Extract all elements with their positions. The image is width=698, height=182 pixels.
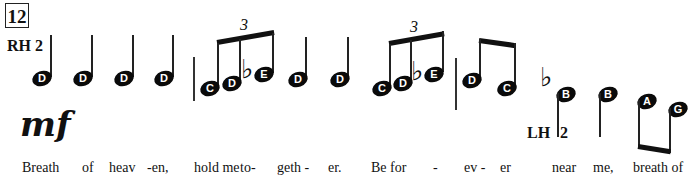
note-head: D: [460, 70, 484, 91]
left-hand-label: LH: [527, 124, 550, 142]
triplet-mark: 3: [410, 18, 418, 36]
lyric-syllable: of: [82, 160, 94, 176]
note-stem: [599, 93, 601, 137]
note-head: D: [328, 69, 352, 90]
note-head: E: [252, 64, 276, 85]
lyric-syllable: ev -: [464, 160, 485, 176]
note-head: D: [112, 68, 136, 89]
lyric-syllable: hold me: [194, 160, 240, 176]
note-head: D: [152, 68, 176, 89]
lyric-syllable: Be for: [371, 160, 406, 176]
note-head: D: [71, 68, 95, 89]
right-hand-label: RH 2: [7, 37, 43, 55]
note-stem: [442, 31, 444, 72]
lyric-syllable: to-: [240, 160, 256, 176]
barline: [455, 58, 457, 110]
flat-accidental: ♭: [411, 58, 423, 84]
beam: [638, 144, 671, 154]
note-stem: [638, 100, 640, 148]
lyric-syllable: Breath: [22, 160, 59, 176]
note-stem: [669, 108, 671, 153]
measure-number: 12: [5, 3, 29, 28]
note-head: C: [370, 78, 394, 99]
note-head: D: [30, 68, 54, 89]
lyric-syllable: -: [433, 160, 438, 176]
barline: [193, 57, 195, 101]
flat-accidental: ♭: [241, 56, 253, 82]
left-hand-finger: 2: [560, 124, 568, 142]
triplet-mark: 3: [240, 16, 248, 34]
flat-accidental: ♭: [540, 64, 552, 90]
lyric-syllable: er.: [328, 160, 342, 176]
note-head: C: [495, 78, 519, 99]
lyric-syllable: -en,: [147, 160, 168, 176]
lyric-syllable: geth -: [277, 160, 309, 176]
note-head: D: [286, 69, 310, 90]
dynamic-marking: mf: [20, 104, 71, 144]
lyric-syllable: heav: [109, 160, 135, 176]
note-stem: [557, 93, 559, 137]
note-head: E: [422, 64, 446, 85]
lyric-syllable: breath of: [633, 160, 683, 176]
note-stem: [217, 43, 219, 86]
beam: [479, 38, 516, 48]
note-stem: [514, 43, 516, 86]
lyric-syllable: er: [500, 160, 511, 176]
note-stem: [479, 39, 481, 77]
note-head: C: [198, 78, 222, 99]
lyric-syllable: me,: [593, 160, 614, 176]
note-stem: [389, 44, 391, 86]
lyric-syllable: near: [552, 160, 576, 176]
